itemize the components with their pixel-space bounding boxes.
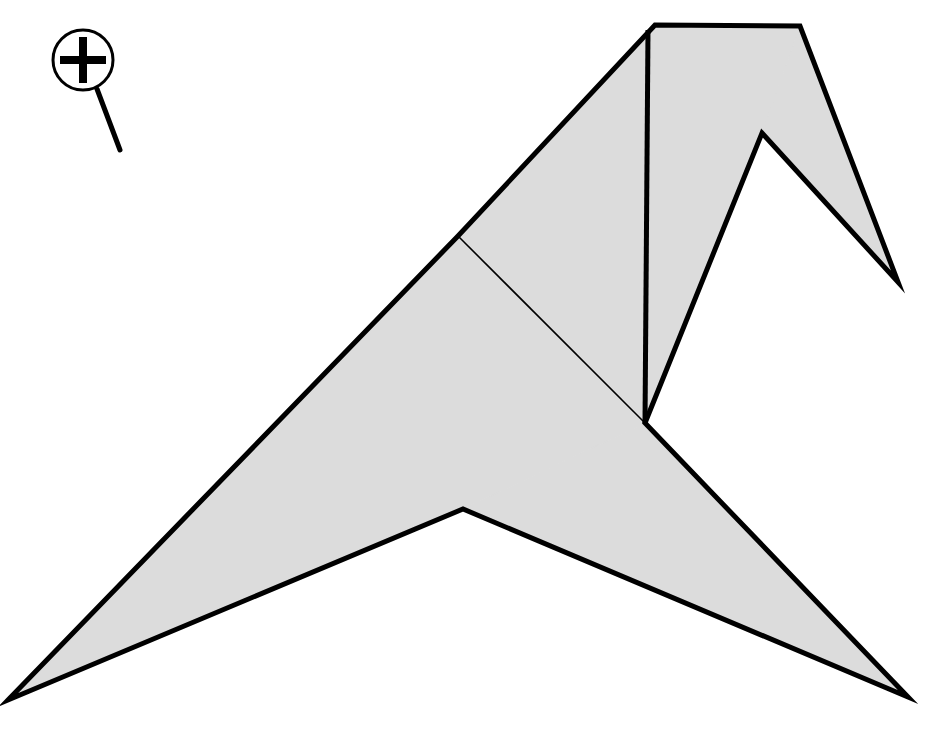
- zoom-in-cursor[interactable]: [53, 30, 120, 150]
- magnifier-handle: [97, 89, 120, 150]
- diagram-canvas: [0, 0, 931, 732]
- figure-faces: [8, 25, 908, 700]
- origami-figure: [0, 0, 931, 732]
- crease-body-vertical: [645, 30, 648, 423]
